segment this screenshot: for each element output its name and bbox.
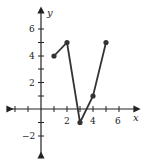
data-point [51, 53, 56, 58]
x-axis-label: x [133, 112, 139, 123]
y-tick-label: 4 [29, 51, 35, 61]
y-tick-label: 6 [29, 24, 35, 34]
y-axis-label: y [46, 7, 53, 18]
data-point [64, 40, 69, 45]
x-tick-label: 4 [90, 116, 96, 126]
data-point [77, 120, 82, 125]
data-point [103, 40, 108, 45]
x-tick-label: 6 [115, 116, 121, 126]
data-point [90, 93, 95, 98]
y-tick-label: −2 [22, 131, 35, 141]
y-tick-label: 2 [29, 78, 35, 88]
x-tick-label: 2 [64, 116, 70, 126]
function-graph: 2 4 6 6 4 2 −2 y x [0, 0, 147, 162]
data-points [51, 40, 108, 125]
